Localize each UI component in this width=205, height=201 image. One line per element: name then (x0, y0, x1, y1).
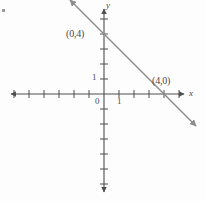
x-tick-label-1: 1 (117, 97, 122, 106)
graph-figure: (0,4) (4,0) 0 1 1 x y (0, 0, 205, 201)
point-label-y-intercept: (0,4) (66, 29, 84, 39)
coordinate-plane-svg (0, 0, 205, 201)
y-axis-label: y (106, 1, 110, 10)
y-tick-label-1: 1 (92, 73, 97, 82)
origin-label: 0 (95, 97, 100, 106)
plotted-line (70, 0, 196, 126)
point-label-x-intercept: (4,0) (152, 76, 170, 86)
x-axis-label: x (189, 89, 193, 98)
